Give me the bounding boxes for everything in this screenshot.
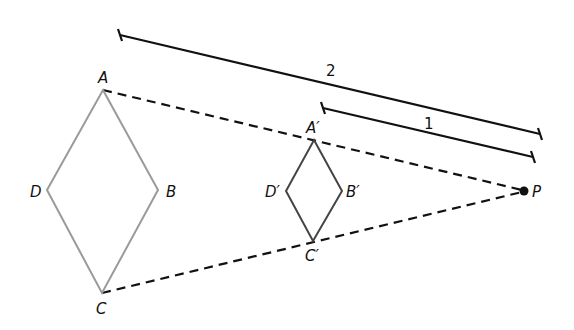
rhombus-a-prime bbox=[286, 140, 342, 241]
label-c: C bbox=[96, 300, 107, 318]
label-a: A bbox=[97, 69, 108, 87]
label-b-prime: B′ bbox=[346, 183, 360, 201]
label-p: P bbox=[532, 183, 542, 201]
label-c-prime: C′ bbox=[305, 247, 319, 265]
measure-label-2: 2 bbox=[326, 62, 336, 80]
center-point-p bbox=[520, 187, 529, 196]
dilation-diagram: 2 1 P A B C D A′ B′ C′ D′ bbox=[0, 0, 574, 330]
label-b: B bbox=[166, 183, 176, 201]
ray-p-to-c bbox=[102, 192, 522, 293]
label-d-prime: D′ bbox=[265, 183, 281, 201]
measure-label-1: 1 bbox=[424, 115, 434, 133]
rhombus-abcd bbox=[47, 90, 158, 293]
label-a-prime: A′ bbox=[305, 119, 320, 137]
label-d: D bbox=[30, 183, 42, 201]
measure-bar-2 bbox=[118, 29, 542, 140]
